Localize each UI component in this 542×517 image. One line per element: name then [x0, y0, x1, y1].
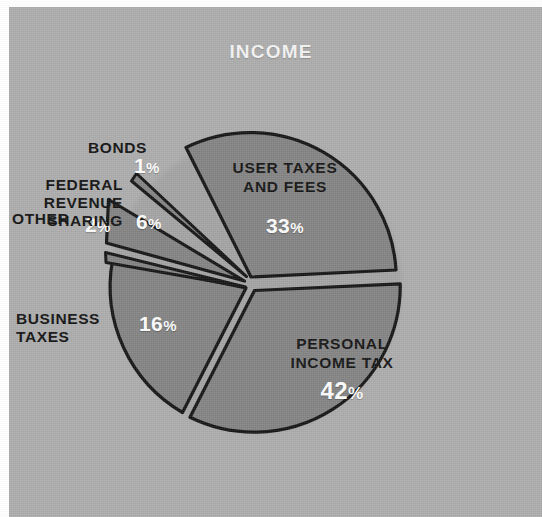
callout-label-business-taxes: BUSINESS TAXES — [16, 310, 146, 346]
percent-value: 33 — [266, 214, 290, 237]
slice-percent-business-taxes: 16% — [139, 312, 229, 336]
slice-label-user-taxes-and-fees: USER TAXES AND FEES — [200, 158, 370, 196]
slice-percent-user-taxes-and-fees: 33% — [200, 214, 370, 238]
percent-sign: % — [146, 159, 160, 176]
percent-sign: % — [348, 384, 364, 403]
callout-label-federal-revenue-sharing: OTHER — [12, 210, 142, 228]
pie-chart: USER TAXES AND FEES 33% PERSONAL INCOME … — [0, 0, 542, 517]
income-pie-chart-poster: INCOME — [0, 0, 542, 517]
percent-sign: % — [148, 215, 162, 232]
percent-sign: % — [163, 317, 177, 334]
callout-label-bonds: BONDS — [0, 139, 147, 157]
slice-percent-personal-income-tax: 42% — [252, 377, 432, 405]
slice-percent-other: 6% — [136, 210, 216, 234]
percent-sign: % — [290, 219, 304, 236]
percent-value: 1 — [134, 154, 146, 177]
slice-label-personal-income-tax: PERSONAL INCOME TAX — [252, 334, 432, 372]
pie-chart-svg — [0, 0, 542, 517]
percent-value: 42 — [320, 377, 348, 404]
slice-percent-bonds: 1% — [134, 154, 194, 178]
